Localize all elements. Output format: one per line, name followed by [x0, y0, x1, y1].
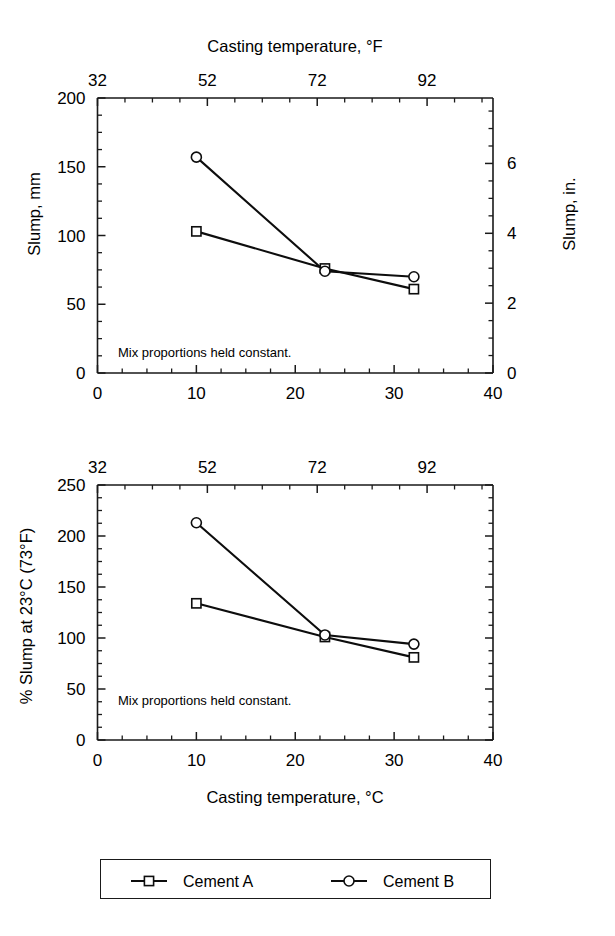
x-tick-label: 30 — [385, 384, 404, 403]
square-marker-icon — [409, 285, 418, 294]
top-axis-tick-label: 32 — [88, 458, 107, 477]
circle-marker-icon — [409, 272, 419, 282]
left-axis-title: Slump, mm — [25, 172, 43, 255]
data-series-group — [191, 518, 419, 662]
y2-tick-label: 6 — [507, 154, 516, 173]
x-tick-label: 30 — [385, 751, 404, 770]
series-cement-a — [192, 227, 419, 294]
y-tick-label: 100 — [57, 227, 85, 246]
chart-percent-slump: 32527292 % Slump at 23°C (73°F) 05010015… — [0, 420, 615, 840]
legend-svg: Cement ACement B — [101, 860, 492, 900]
data-series-group — [191, 152, 419, 294]
top-axis-tick-label: 92 — [418, 458, 437, 477]
y-tick-label: 0 — [76, 364, 85, 383]
left-axis-tick-labels: 050100150200 — [57, 89, 85, 383]
x-tick-label: 10 — [187, 384, 206, 403]
legend-item: Cement B — [331, 873, 454, 890]
series-line — [196, 231, 414, 289]
series-cement-a — [192, 599, 419, 662]
y-tick-label: 250 — [57, 476, 85, 495]
square-marker-icon — [409, 653, 418, 662]
legend-item: Cement A — [131, 873, 254, 890]
right-axis-title: Slump, in. — [560, 177, 578, 250]
series-cement-b — [191, 518, 419, 649]
top-axis-title: Casting temperature, °F — [207, 37, 382, 55]
y-tick-label: 150 — [57, 158, 85, 177]
legend-label: Cement B — [383, 873, 454, 890]
x-tick-label: 20 — [286, 384, 305, 403]
top-axis-tick-label: 52 — [198, 71, 217, 90]
chart-slump-mm: Casting temperature, °F 32527292 Slump, … — [0, 30, 615, 405]
circle-marker-icon — [320, 630, 330, 640]
series-line — [196, 523, 414, 644]
top-axis-tick-label: 52 — [198, 458, 217, 477]
plot-note: Mix proportions held constant. — [118, 693, 291, 708]
y-tick-label: 0 — [76, 731, 85, 750]
top-axis-tick-label: 72 — [308, 71, 327, 90]
y-tick-label: 150 — [57, 578, 85, 597]
top-axis-tick-label: 92 — [418, 71, 437, 90]
top-axis-tick-label: 32 — [88, 71, 107, 90]
x-tick-label: 40 — [484, 751, 503, 770]
bottom-axis-tick-labels: 010203040 — [93, 384, 503, 403]
square-marker-icon — [144, 876, 153, 885]
y2-tick-label: 0 — [507, 364, 516, 383]
axis-frame — [98, 98, 494, 373]
x-tick-label: 10 — [187, 751, 206, 770]
legend-label: Cement A — [183, 873, 254, 890]
y2-tick-label: 4 — [507, 224, 516, 243]
circle-marker-icon — [320, 266, 330, 276]
top-axis-tick-labels: 32527292 — [88, 458, 437, 477]
y-tick-label: 50 — [67, 680, 86, 699]
bottom-axis-title: Casting temperature, °C — [206, 788, 383, 806]
y-tick-label: 50 — [67, 295, 86, 314]
circle-marker-icon — [409, 639, 419, 649]
top-axis-tick-label: 72 — [308, 458, 327, 477]
square-marker-icon — [192, 599, 201, 608]
top-axis-tick-labels: 32527292 — [88, 71, 437, 90]
circle-marker-icon — [344, 876, 354, 886]
figure-root: Casting temperature, °F 32527292 Slump, … — [0, 0, 615, 936]
plot-frame — [98, 98, 494, 373]
chart-bottom-svg: 32527292 % Slump at 23°C (73°F) 05010015… — [0, 420, 615, 840]
series-line — [196, 603, 414, 657]
circle-marker-icon — [191, 518, 201, 528]
x-tick-label: 0 — [93, 384, 102, 403]
circle-marker-icon — [191, 152, 201, 162]
plot-note: Mix proportions held constant. — [118, 345, 291, 360]
left-axis-tick-labels: 050100150200250 — [57, 476, 85, 750]
y-tick-label: 200 — [57, 527, 85, 546]
chart-top-svg: Casting temperature, °F 32527292 Slump, … — [0, 30, 615, 405]
x-tick-label: 40 — [484, 384, 503, 403]
y2-tick-label: 2 — [507, 294, 516, 313]
series-line — [196, 157, 414, 277]
bottom-axis-tick-labels: 010203040 — [93, 751, 503, 770]
legend: Cement ACement B — [100, 859, 491, 899]
y-tick-label: 200 — [57, 89, 85, 108]
square-marker-icon — [192, 227, 201, 236]
left-axis-title: % Slump at 23°C (73°F) — [17, 528, 35, 704]
x-tick-label: 20 — [286, 751, 305, 770]
right-axis-tick-labels: 0246 — [507, 154, 516, 383]
x-tick-label: 0 — [93, 751, 102, 770]
y-tick-label: 100 — [57, 629, 85, 648]
